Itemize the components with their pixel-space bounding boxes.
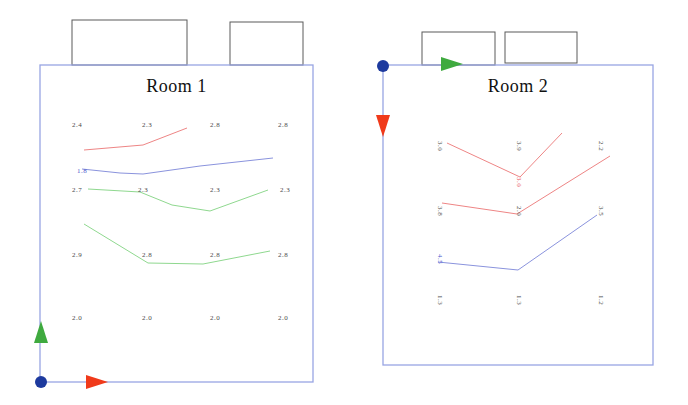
room-1-measurement-label: 2.8: [210, 121, 220, 129]
room-2-measurement-label: 1.2: [597, 295, 605, 305]
room-1-measurement-label: 2.3: [142, 121, 152, 129]
room-1-measurement-label: 2.9: [72, 251, 82, 259]
room-1-measurement-label: 2.8: [278, 251, 288, 259]
room-2-measurement-label: 4.5: [436, 254, 444, 264]
room-1-measurement-label: 2.8: [210, 251, 220, 259]
room-1-measurement-label: 2.0: [72, 314, 82, 322]
room-1-measurement-label: 2.0: [278, 314, 288, 322]
room-2-measurement-label: 3.5: [597, 206, 605, 216]
room-2-measurement-label: 2.0: [515, 206, 523, 216]
room-2-measurement-label: 1.3: [436, 295, 444, 305]
room-1-measurement-label: 2.0: [210, 314, 220, 322]
room-1-measurement-label: 2.4: [72, 121, 82, 129]
room-1-measurement-label: 2.3: [138, 186, 148, 194]
room-1-measurement-label: 2.3: [280, 186, 290, 194]
room-1-measurement-label: 1.8: [77, 167, 87, 175]
room-1-measurement-label: 2.7: [72, 186, 82, 194]
room-2-measurement-label: 3.8: [436, 206, 444, 216]
room-2-measurement-label: 3.0: [515, 177, 523, 187]
room-2-measurement-label: 3.0: [436, 141, 444, 151]
room-1-measurement-label: 2.0: [142, 314, 152, 322]
measurement-labels-layer: 2.42.32.82.81.82.72.32.32.32.92.82.82.82…: [0, 0, 688, 405]
floorplan-figure: Room 1 Room 2 2.42.32.82.81.82.72.32.32.…: [0, 0, 688, 405]
room-2-measurement-label: 1.3: [515, 295, 523, 305]
room-2-measurement-label: 3.9: [515, 141, 523, 151]
room-1-measurement-label: 2.8: [142, 251, 152, 259]
room-1-measurement-label: 2.3: [210, 186, 220, 194]
room-1-measurement-label: 2.8: [278, 121, 288, 129]
room-2-measurement-label: 2.2: [597, 141, 605, 151]
